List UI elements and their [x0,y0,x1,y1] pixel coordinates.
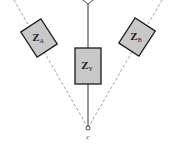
top-junction-icon [80,0,96,4]
impedance-ZB: ZB [119,18,155,56]
impedance-diagram: ZA ZB ZY c [0,0,177,160]
top-node [80,0,96,4]
impedance-ZS: ZY [75,48,101,84]
impedance-ZA: ZA [21,19,57,57]
node-c-terminal-icon [86,126,90,130]
node-c: c [86,126,90,141]
node-c-label: c [86,133,90,141]
